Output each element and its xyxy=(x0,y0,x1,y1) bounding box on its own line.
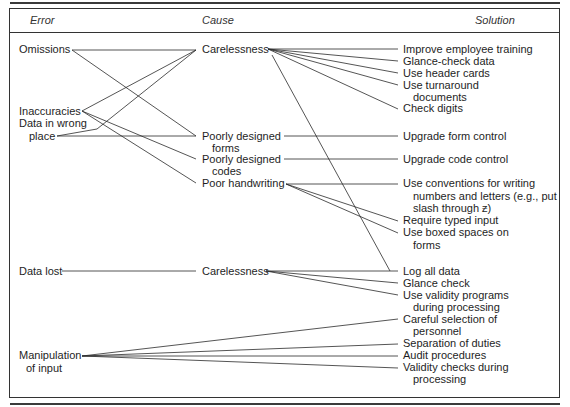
column-header-cause: Cause xyxy=(202,14,234,26)
solution-improve-training: Improve employee training xyxy=(403,43,533,55)
solution-validity-programs-line2: during processing xyxy=(413,301,500,313)
cause-poor-handwriting: Poor handwriting xyxy=(202,177,285,189)
error-data-wrong-line1: Data in wrong xyxy=(19,117,87,129)
cause-carelessness-2: Carelessness xyxy=(202,265,269,277)
solution-careful-selection-line1: Careful selection of xyxy=(403,313,497,325)
solution-log-all-data: Log all data xyxy=(403,265,460,277)
cause-poor-codes-line2: codes xyxy=(212,165,241,177)
error-inaccuracies: Inaccuracies xyxy=(19,105,81,117)
error-data-wrong-line2: place xyxy=(29,130,55,142)
top-rule xyxy=(10,2,560,4)
bottom-rule xyxy=(10,403,560,405)
error-manipulation-line1: Manipulation xyxy=(19,349,81,361)
solution-validity-checks-line1: Validity checks during xyxy=(403,361,509,373)
error-manipulation-line2: of input xyxy=(26,362,62,374)
solution-conventions-line1: Use conventions for writing xyxy=(403,177,535,189)
solution-glance-check: Glance check xyxy=(403,277,470,289)
solution-turnaround-line1: Use turnaround xyxy=(403,79,479,91)
solution-upgrade-form: Upgrade form control xyxy=(403,130,506,142)
solution-careful-selection-line2: personnel xyxy=(413,325,461,337)
solution-upgrade-code: Upgrade code control xyxy=(403,153,508,165)
error-data-lost: Data lost xyxy=(19,265,62,277)
solution-conventions-line2: numbers and letters (e.g., put xyxy=(413,190,557,202)
solution-conventions-line3: slash through ƶ) xyxy=(413,202,491,214)
solution-boxed-spaces-line2: forms xyxy=(413,239,441,251)
header-divider xyxy=(9,32,560,33)
solution-boxed-spaces-line1: Use boxed spaces on xyxy=(403,226,509,238)
solution-separation: Separation of duties xyxy=(403,337,501,349)
column-header-solution: Solution xyxy=(475,14,515,26)
solution-header-cards: Use header cards xyxy=(403,67,490,79)
error-omissions: Omissions xyxy=(19,43,70,55)
solution-audit: Audit procedures xyxy=(403,349,486,361)
solution-validity-checks-line2: processing xyxy=(413,373,466,385)
cause-carelessness: Carelessness xyxy=(202,43,269,55)
cause-poor-codes-line1: Poorly designed xyxy=(202,153,281,165)
solution-validity-programs-line1: Use validity programs xyxy=(403,289,509,301)
solution-check-digits: Check digits xyxy=(403,102,463,114)
solution-glance-check-data: Glance-check data xyxy=(403,55,495,67)
column-header-error: Error xyxy=(30,14,54,26)
cause-poor-forms-line1: Poorly designed xyxy=(202,130,281,142)
solution-typed-input: Require typed input xyxy=(403,214,498,226)
